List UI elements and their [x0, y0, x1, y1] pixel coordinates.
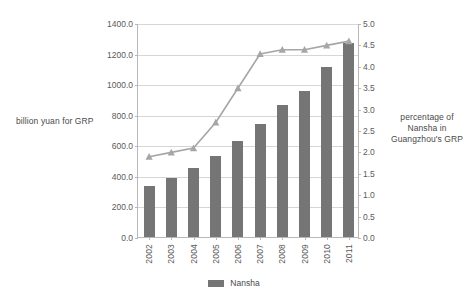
x-tick-mark — [327, 237, 328, 240]
y-axis-right-tick-label: 4.5 — [363, 40, 375, 50]
x-axis-tick-label: 2009 — [300, 244, 310, 264]
x-tick-mark — [238, 237, 239, 240]
x-axis-tick-label: 2004 — [189, 244, 199, 264]
legend-swatch-nansha — [208, 280, 224, 287]
x-tick-mark — [149, 237, 150, 240]
y-axis-right-tick-label: 0.5 — [363, 212, 375, 222]
line-path — [149, 41, 349, 157]
legend: Nansha — [0, 278, 468, 288]
x-tick-mark — [216, 237, 217, 240]
y-axis-left-tick-label: 1200.0 — [107, 50, 133, 60]
x-axis-tick-label: 2005 — [211, 244, 221, 264]
y-axis-right-tick-label: 2.5 — [363, 126, 375, 136]
y-axis-left-tick-label: 600.0 — [112, 141, 133, 151]
x-axis-tick-label: 2008 — [277, 244, 287, 264]
right-axis-title-line3: Guangzhou's GRP — [388, 134, 466, 145]
right-axis-title: percentage of Nansha in Guangzhou's GRP — [388, 112, 466, 145]
y-axis-right-tick-label: 1.5 — [363, 169, 375, 179]
x-tick-mark — [349, 237, 350, 240]
x-tick-mark — [282, 237, 283, 240]
x-tick-mark — [260, 237, 261, 240]
x-tick-mark — [171, 237, 172, 240]
y-axis-left-tick-label: 200.0 — [112, 202, 133, 212]
y-axis-left-tick-label: 1400.0 — [107, 19, 133, 29]
y-axis-right-tick-label: 3.0 — [363, 105, 375, 115]
legend-label-nansha: Nansha — [230, 278, 259, 288]
y-axis-right-tick-label: 5.0 — [363, 19, 375, 29]
x-axis-tick-label: 2011 — [344, 244, 354, 263]
y-axis-left-tick-label: 800.0 — [112, 111, 133, 121]
y-axis-left-tick-label: 0.0 — [121, 233, 133, 243]
chart-container: billion yuan for GRP percentage of Nansh… — [0, 0, 468, 301]
y-axis-right-tick-label: 0.0 — [363, 233, 375, 243]
x-axis-tick-label: 2010 — [322, 244, 332, 264]
line-series-percentage — [138, 24, 358, 237]
y-tick-mark-left — [135, 238, 138, 239]
line-series-svg — [138, 24, 360, 238]
plot-area: 0.0200.0400.0600.0800.01000.01200.01400.… — [137, 24, 359, 238]
x-tick-mark — [194, 237, 195, 240]
left-axis-title: billion yuan for GRP — [16, 116, 116, 127]
y-axis-left-tick-label: 400.0 — [112, 172, 133, 182]
x-tick-mark — [305, 237, 306, 240]
x-axis-tick-label: 2007 — [255, 244, 265, 264]
y-axis-right-tick-label: 2.0 — [363, 147, 375, 157]
y-tick-mark-right — [358, 238, 361, 239]
x-axis-tick-label: 2002 — [144, 244, 154, 264]
x-axis-tick-label: 2003 — [166, 244, 176, 264]
y-axis-right-tick-label: 3.5 — [363, 83, 375, 93]
y-axis-left-tick-label: 1000.0 — [107, 80, 133, 90]
x-axis-tick-label: 2006 — [233, 244, 243, 264]
right-axis-title-line1: percentage of — [388, 112, 466, 123]
y-axis-right-tick-label: 4.0 — [363, 62, 375, 72]
right-axis-title-line2: Nansha in — [388, 123, 466, 134]
y-axis-right-tick-label: 1.0 — [363, 190, 375, 200]
